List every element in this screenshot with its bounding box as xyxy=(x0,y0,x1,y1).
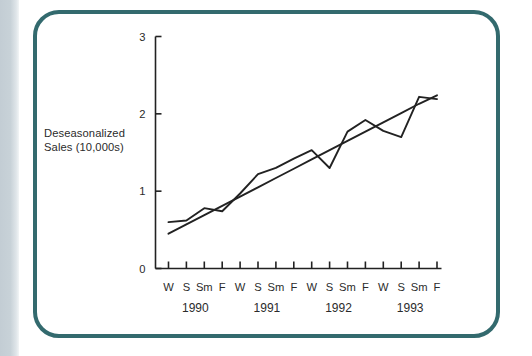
x-tick-label-season: S xyxy=(183,281,190,293)
y-tick-label: 2 xyxy=(139,108,145,120)
x-axis-year-label: 1992 xyxy=(325,301,352,315)
x-tick-label-season: W xyxy=(235,281,246,293)
x-tick-label-season: F xyxy=(434,281,441,293)
chart-axes xyxy=(156,37,442,269)
y-tick-label: 3 xyxy=(139,31,145,43)
y-tick-labels: 0123 xyxy=(139,31,145,275)
x-tick-label-season: W xyxy=(378,281,389,293)
x-tick-label-season: Sm xyxy=(268,281,285,293)
x-tick-label-season: Sm xyxy=(196,281,213,293)
trend-line-series xyxy=(169,95,438,233)
x-axis-year-label: 1993 xyxy=(397,301,424,315)
y-tick-label: 0 xyxy=(139,263,145,275)
x-axis-year-label: 1991 xyxy=(254,301,281,315)
x-tick-label-season: Sm xyxy=(411,281,428,293)
x-tick-label-season: W xyxy=(306,281,317,293)
x-axis-year-label: 1990 xyxy=(182,301,209,315)
y-tick-label: 1 xyxy=(139,185,145,197)
figure-page: Deseasonalized Sales (10,000s) 0123 WSSm… xyxy=(0,0,532,356)
year-labels: 1990199119921993 xyxy=(182,301,424,315)
x-tick-label-season: Sm xyxy=(339,281,356,293)
x-tick-label-season: F xyxy=(362,281,369,293)
x-tick-label-season: F xyxy=(219,281,226,293)
x-tick-label-season: S xyxy=(397,281,404,293)
x-tick-label-season: W xyxy=(163,281,174,293)
x-tick-labels: WSSmFWSSmFWSSmFWSSmF xyxy=(163,281,440,293)
x-tick-label-season: S xyxy=(254,281,261,293)
series-polyline xyxy=(169,95,438,233)
x-tick-label-season: F xyxy=(290,281,297,293)
x-tick-label-season: S xyxy=(326,281,333,293)
line-chart: 0123 WSSmFWSSmFWSSmFWSSmF 19901991199219… xyxy=(0,0,532,356)
